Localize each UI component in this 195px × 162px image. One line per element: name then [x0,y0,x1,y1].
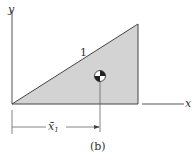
triangle-area [12,24,138,104]
triangle-diagram: y x 1 x̄1 (b) [0,0,195,162]
figure-caption: (b) [90,140,106,153]
y-axis-label: y [7,3,15,16]
x-axis-label: x [185,97,192,110]
arrowhead-icon [94,125,100,129]
figure-canvas: y x 1 x̄1 (b) [0,0,195,162]
edge-length-label: 1 [80,46,87,59]
centroid-icon [95,71,106,82]
